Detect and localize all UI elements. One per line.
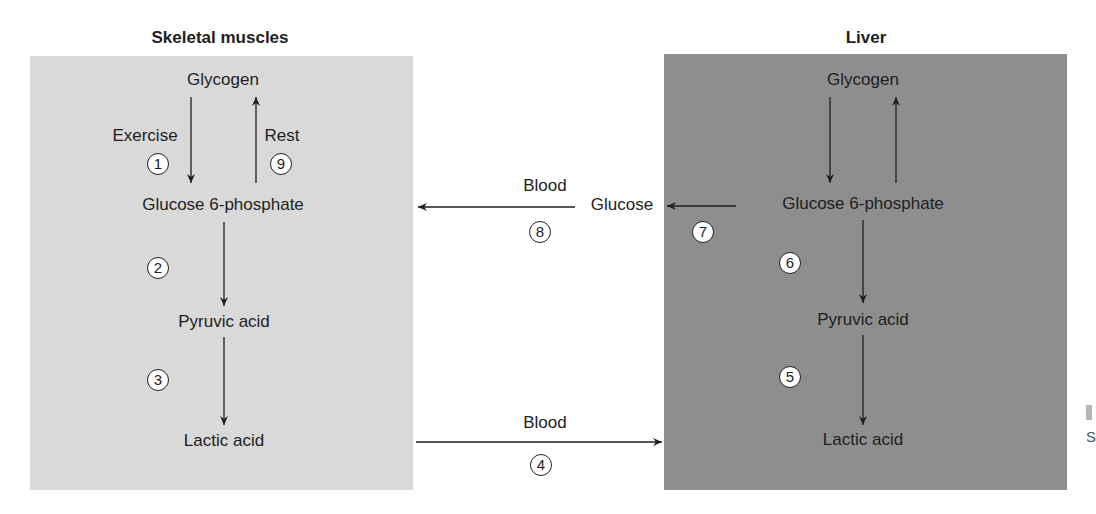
muscle-glucose-6-phosphate: Glucose 6-phosphate [142, 195, 304, 215]
step-6-badge: 6 [779, 252, 801, 274]
clipped-edge-mark [1086, 405, 1092, 420]
step-3-badge: 3 [147, 369, 169, 391]
exercise-label: Exercise [112, 126, 177, 146]
liver-pyruvic-acid: Pyruvic acid [817, 310, 909, 330]
step-1-badge: 1 [147, 153, 169, 175]
muscle-lactic-acid: Lactic acid [184, 431, 264, 451]
rest-label: Rest [265, 126, 300, 146]
step-8-badge: 8 [529, 221, 551, 243]
step-7-badge: 7 [692, 221, 714, 243]
blood-label-bottom: Blood [523, 413, 566, 433]
step-9-badge: 9 [270, 153, 292, 175]
glucose-label: Glucose [591, 195, 653, 215]
muscle-glycogen: Glycogen [187, 70, 259, 90]
liver-lactic-acid: Lactic acid [823, 430, 903, 450]
liver-glucose-6-phosphate: Glucose 6-phosphate [782, 194, 944, 214]
liver-glycogen: Glycogen [827, 70, 899, 90]
step-5-badge: 5 [779, 366, 801, 388]
clipped-edge-text: S [1086, 428, 1096, 445]
step-4-badge: 4 [530, 454, 552, 476]
muscle-pyruvic-acid: Pyruvic acid [178, 312, 270, 332]
step-2-badge: 2 [147, 257, 169, 279]
blood-label-top: Blood [523, 176, 566, 196]
